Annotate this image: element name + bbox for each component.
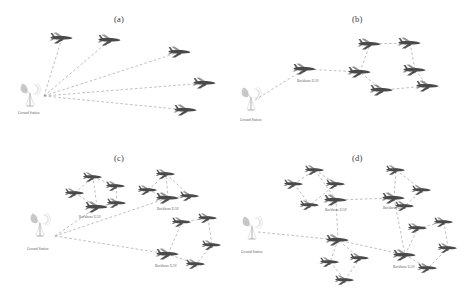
- plane-tail-fin: [156, 170, 160, 174]
- plane-engine: [357, 259, 360, 260]
- plane-engine: [94, 209, 98, 211]
- backbone-uav-label-d-1: Backbone UAV: [383, 206, 405, 210]
- plane-fuselage: [324, 198, 346, 202]
- plane-fuselage: [305, 168, 324, 171]
- plane-tail-fin: [325, 195, 330, 199]
- plane-near-wing: [386, 199, 396, 204]
- station-dish: [242, 88, 249, 98]
- plane-tail-fin: [180, 192, 184, 196]
- plane-engine: [113, 187, 116, 188]
- plane-stabilizer: [437, 248, 442, 250]
- plane-near-wing: [141, 191, 150, 195]
- plane-fuselage: [107, 201, 126, 204]
- plane-far-wing: [421, 263, 429, 267]
- plane-near-wing: [297, 70, 307, 75]
- ground-station-b: [242, 87, 262, 110]
- plane-fuselage: [326, 238, 348, 242]
- plane-fuselage: [370, 88, 392, 92]
- plane-tail-fin: [383, 193, 388, 197]
- plane-near-wing: [397, 256, 407, 261]
- plane-fuselage: [293, 67, 315, 71]
- uav-c-7: [171, 217, 191, 226]
- plane-far-wing: [287, 179, 295, 183]
- plane-stabilizer: [325, 240, 331, 242]
- plane-stabilizer: [325, 184, 330, 186]
- plane-fuselage: [156, 252, 178, 256]
- plane-engine: [441, 223, 444, 224]
- uav-c-3: [106, 198, 126, 207]
- network-nodes-layer: [0, 0, 474, 298]
- backbone-uav-label-d-0: Backbone UAV: [325, 208, 347, 212]
- uav-d-0: [304, 165, 324, 174]
- plane-tail-fin: [175, 105, 180, 109]
- plane-tail-fin: [51, 33, 56, 37]
- plane-fuselage: [416, 84, 438, 88]
- backbone-uav-c-2: [155, 249, 178, 260]
- plane-tail-fin: [412, 186, 416, 190]
- backbone-uav-d-1: [381, 193, 404, 204]
- plane-stabilizer: [304, 170, 309, 172]
- plane-fuselage: [434, 220, 453, 223]
- plane-engine: [307, 206, 310, 207]
- uav-b-3: [402, 65, 425, 76]
- uav-a-4: [173, 105, 196, 116]
- plane-near-wing: [175, 223, 184, 227]
- station-guy-right: [251, 98, 255, 110]
- plane-far-wing: [172, 47, 182, 52]
- plane-tail-fin: [107, 199, 111, 203]
- plane-engine: [107, 42, 111, 44]
- plane-far-wing: [415, 185, 423, 189]
- plane-tail-fin: [434, 218, 438, 222]
- plane-far-wing: [159, 169, 167, 173]
- plane-fuselage: [326, 182, 345, 185]
- plane-engine: [193, 265, 196, 266]
- plane-far-wing: [86, 172, 94, 176]
- plane-engine: [179, 223, 182, 224]
- station-guy-left: [248, 227, 252, 239]
- plane-engine: [59, 40, 63, 42]
- plane-fuselage: [335, 278, 354, 281]
- plane-near-wing: [201, 219, 210, 223]
- plane-engine: [205, 219, 208, 220]
- plane-far-wing: [68, 188, 76, 192]
- station-signal-arc: [43, 215, 48, 224]
- plane-far-wing: [308, 165, 316, 169]
- plane-tail-fin: [194, 78, 199, 82]
- plane-stabilizer: [402, 70, 408, 72]
- plane-near-wing: [402, 44, 412, 49]
- plane-stabilizer: [357, 44, 363, 46]
- plane-tail-fin: [172, 218, 176, 222]
- uav-c-6: [179, 191, 199, 200]
- backbone-uav-b-0: [292, 64, 315, 75]
- station-signal-arc: [33, 85, 38, 94]
- plane-near-wing: [110, 204, 119, 208]
- plane-fuselage: [386, 168, 405, 171]
- plane-engine: [209, 246, 212, 247]
- plane-tail-fin: [359, 39, 364, 43]
- plane-engine: [415, 229, 418, 230]
- plane-tail-fin: [65, 189, 69, 193]
- plane-stabilizer: [201, 245, 206, 247]
- plane-engine: [312, 171, 315, 172]
- uav-d-9: [437, 243, 457, 252]
- plane-stabilizer: [415, 86, 421, 88]
- plane-tail-fin: [86, 202, 91, 206]
- plane-near-wing: [159, 175, 168, 179]
- plane-fuselage: [438, 246, 457, 249]
- plane-stabilizer: [381, 198, 387, 200]
- plane-far-wing: [110, 198, 118, 202]
- uav-c-9: [201, 240, 221, 249]
- plane-tail-fin: [157, 193, 162, 197]
- plane-near-wing: [86, 178, 95, 182]
- plane-engine: [357, 74, 361, 76]
- plane-engine: [187, 197, 190, 198]
- plane-stabilizer: [334, 280, 339, 282]
- backbone-uav-d-3: [325, 235, 348, 246]
- plane-near-wing: [323, 263, 332, 267]
- plane-stabilizer: [197, 218, 202, 220]
- plane-tail-fin: [418, 264, 422, 268]
- backbone-uav-label-c-1: Backbone UAV: [157, 207, 179, 211]
- plane-tail-fin: [300, 201, 304, 205]
- plane-fuselage: [186, 262, 205, 265]
- plane-fuselage: [156, 172, 175, 175]
